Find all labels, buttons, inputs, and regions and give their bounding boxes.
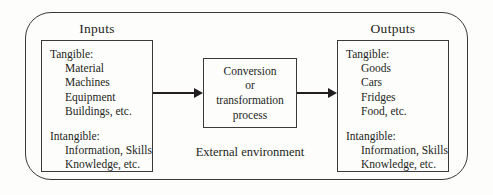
arrow-shaft	[297, 92, 328, 94]
inputs-heading: Inputs	[41, 21, 153, 37]
outputs-heading: Outputs	[337, 21, 449, 37]
outputs-intangible-label: Intangible:	[346, 129, 448, 143]
inputs-tangible-label: Tangible:	[50, 47, 152, 61]
list-item: Knowledge, etc.	[65, 157, 152, 171]
list-item: Knowledge, etc.	[361, 157, 448, 171]
inputs-tangible-list: Material Machines Equipment Buildings, e…	[50, 61, 152, 118]
inputs-group-spacer	[50, 118, 152, 129]
inputs-intangible-list: Information, Skills Knowledge, etc.	[50, 143, 152, 171]
arrow-head	[328, 88, 337, 98]
list-item: Machines	[65, 75, 152, 89]
outputs-group-spacer	[346, 118, 448, 129]
list-item: Cars	[361, 75, 448, 89]
inputs-intangible-label: Intangible:	[50, 129, 152, 143]
process-model-diagram: Inputs Tangible: Material Machines Equip…	[0, 0, 493, 195]
conversion-process-box: Conversion or transformation process	[203, 58, 297, 128]
list-item: Information, Skills	[65, 143, 152, 157]
process-line-3: transformation	[216, 93, 284, 108]
arrow-inputs-to-process-icon	[153, 88, 203, 98]
arrow-head	[194, 88, 203, 98]
process-line-4: process	[233, 108, 268, 123]
list-item: Food, etc.	[361, 104, 448, 118]
outputs-tangible-list: Goods Cars Fridges Food, etc.	[346, 61, 448, 118]
outputs-box: Tangible: Goods Cars Fridges Food, etc. …	[337, 40, 449, 172]
process-line-1: Conversion	[223, 64, 276, 79]
process-line-2: or	[245, 78, 255, 93]
list-item: Goods	[361, 61, 448, 75]
list-item: Fridges	[361, 90, 448, 104]
list-item: Material	[65, 61, 152, 75]
external-environment-label: External environment	[168, 145, 332, 160]
outputs-intangible-list: Information, Skills Knowledge, etc.	[346, 143, 448, 171]
outputs-tangible-label: Tangible:	[346, 47, 448, 61]
arrow-shaft	[153, 92, 194, 94]
list-item: Buildings, etc.	[65, 104, 152, 118]
arrow-process-to-outputs-icon	[297, 88, 337, 98]
list-item: Equipment	[65, 90, 152, 104]
inputs-box: Tangible: Material Machines Equipment Bu…	[41, 40, 153, 172]
list-item: Information, Skills	[361, 143, 448, 157]
